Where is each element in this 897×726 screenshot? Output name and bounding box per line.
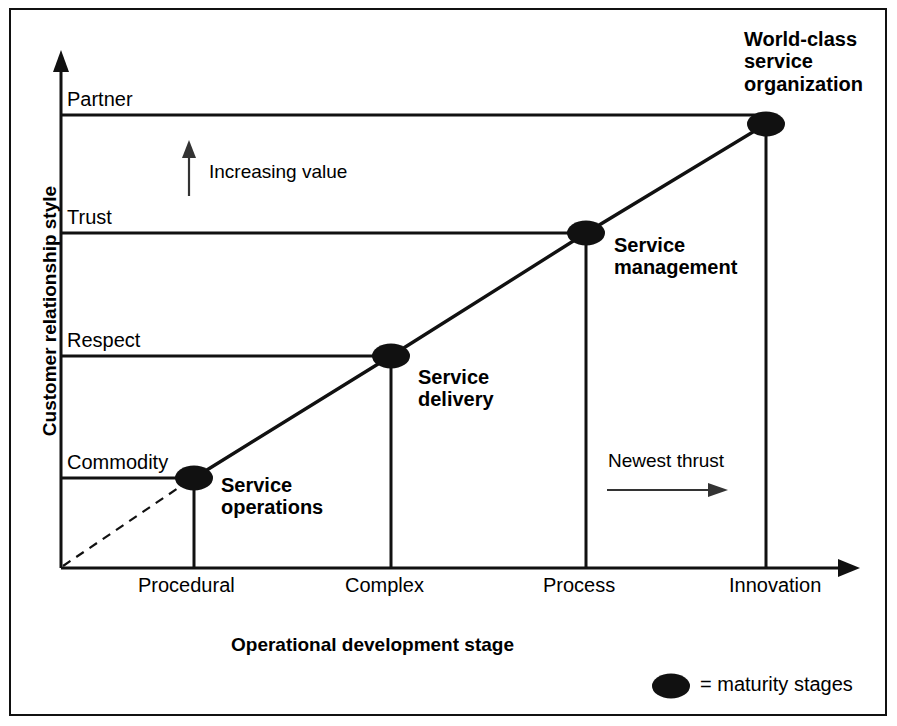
y-tick-label-respect: Respect: [67, 329, 140, 351]
point-label-line1: World-class: [744, 28, 857, 50]
point-label-line2: service: [744, 50, 813, 72]
legend-label: = maturity stages: [700, 673, 853, 695]
legend-marker-icon: [652, 674, 690, 699]
point-label-world-class: World-class service organization: [744, 28, 863, 95]
dashed-origin-line: [63, 480, 190, 566]
point-label-line1: Service: [614, 234, 685, 256]
x-tick-label-complex: Complex: [345, 574, 424, 596]
y-tick-label-trust: Trust: [67, 206, 112, 228]
newest-thrust-arrow: [607, 483, 728, 497]
figure-root: Customer relationship style Partner Trus…: [0, 0, 897, 726]
y-tick-label-partner: Partner: [67, 88, 133, 110]
x-tick-label-procedural: Procedural: [138, 574, 235, 596]
point-label-service-delivery: Service delivery: [418, 366, 494, 411]
point-label-line1: Service: [221, 474, 292, 496]
annotation-newest-thrust: Newest thrust: [608, 450, 724, 471]
annotation-increasing-value: Increasing value: [209, 161, 347, 182]
marker-service-operations: [175, 466, 213, 491]
x-tick-label-innovation: Innovation: [729, 574, 821, 596]
x-axis-title: Operational development stage: [231, 634, 514, 655]
point-label-service-management: Service management: [614, 234, 737, 279]
point-label-line2: management: [614, 256, 737, 278]
point-label-line3: organization: [744, 73, 863, 95]
marker-service-delivery: [372, 344, 410, 369]
x-tick-label-process: Process: [543, 574, 615, 596]
increasing-value-arrow: [182, 140, 196, 196]
y-tick-label-commodity: Commodity: [67, 451, 168, 473]
level-lines: [61, 115, 766, 478]
point-label-line1: Service: [418, 366, 489, 388]
marker-world-class: [747, 112, 785, 137]
marker-service-management: [567, 221, 605, 246]
diagram-canvas: [0, 0, 897, 726]
point-label-line2: operations: [221, 496, 323, 518]
point-label-line2: delivery: [418, 388, 494, 410]
y-axis-title: Customer relationship style: [39, 181, 61, 441]
point-label-service-operations: Service operations: [221, 474, 323, 519]
